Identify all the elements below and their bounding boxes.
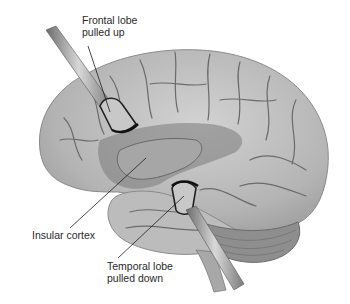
label-temporal-line2: pulled down [107, 272, 173, 284]
label-temporal-lobe: Temporal lobe pulled down [107, 260, 173, 284]
brain-illustration: Frontal lobe pulled up Insular cortex Te… [0, 0, 350, 304]
label-frontal-lobe: Frontal lobe pulled up [82, 14, 137, 38]
label-frontal-line2: pulled up [82, 26, 137, 38]
label-insular-line1: Insular cortex [32, 229, 95, 241]
label-insular-cortex: Insular cortex [32, 229, 95, 241]
brain-drawing [0, 0, 350, 304]
label-temporal-line1: Temporal lobe [107, 260, 173, 272]
label-frontal-line1: Frontal lobe [82, 14, 137, 26]
